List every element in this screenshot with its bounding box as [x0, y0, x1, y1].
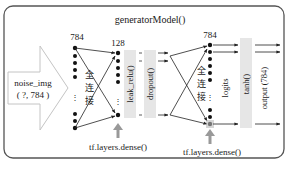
- dropout-out-arrows: [158, 53, 168, 115]
- dense2-up-arrow-icon: [205, 129, 215, 144]
- hidden-ellipsis: ⋮: [114, 97, 122, 106]
- input-name: noise_img: [14, 78, 52, 88]
- generator-model-diagram: generatorModel() noise_img ( ?, 784 ) 78…: [0, 0, 288, 172]
- dense1-up-arrow-icon: [113, 123, 123, 138]
- diagram-title: generatorModel(): [115, 14, 186, 26]
- fc1-char-2: 连: [85, 82, 94, 93]
- hidden-nodes: [116, 51, 120, 117]
- dense2-label: tf.layers.dense(): [183, 147, 241, 157]
- input-ellipsis: ⋮: [71, 93, 79, 102]
- dash-marks: [139, 53, 142, 115]
- leak-relu-label: leak_relu(): [125, 65, 135, 102]
- output-units-label: 784: [203, 30, 217, 40]
- hidden-units-label: 128: [111, 38, 125, 48]
- dropout-label: dropout(): [145, 68, 155, 100]
- input-arrow-shape: [8, 46, 68, 130]
- dense1-label: tf.layers.dense(): [89, 142, 147, 152]
- fc1-connections: [75, 48, 115, 128]
- output-ellipsis: ⋮: [206, 93, 214, 102]
- output-node-highlight: [206, 120, 214, 128]
- fc2-char-3: 接: [197, 91, 206, 102]
- logits-label: logits: [220, 79, 230, 98]
- tanh-label: tanh(): [241, 74, 251, 94]
- input-shape: ( ?, 784 ): [17, 90, 50, 100]
- input-nodes: [73, 46, 77, 130]
- fc2-char-1: 全: [197, 65, 206, 76]
- output-nodes: [208, 43, 212, 126]
- input-units-label: 784: [70, 32, 84, 42]
- fc2-char-2: 连: [197, 78, 206, 89]
- output-label: output (784): [259, 67, 269, 109]
